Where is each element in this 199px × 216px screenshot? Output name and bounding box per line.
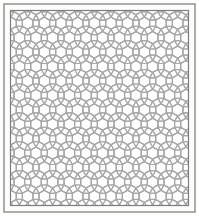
- lattice-field: [0, 0, 199, 216]
- panel-drawing: [0, 0, 199, 216]
- decorative-lattice-panel: [0, 0, 199, 216]
